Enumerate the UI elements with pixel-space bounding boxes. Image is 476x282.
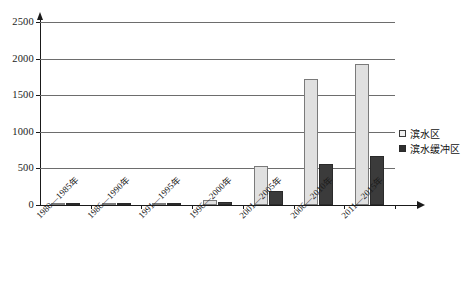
y-tick-label-0: 0 xyxy=(0,200,34,211)
bar-chart: 05001000150020002500 1980—1985年1986—1990… xyxy=(0,0,476,282)
chart-legend: 滨水区 滨水缓冲区 xyxy=(399,126,460,156)
y-axis-arrow-icon xyxy=(37,12,43,20)
plot-area xyxy=(40,22,395,205)
bar xyxy=(167,203,181,205)
x-tick-mark xyxy=(395,205,396,209)
x-axis-arrow-icon xyxy=(417,201,425,209)
legend-swatch-icon-buffer xyxy=(399,145,406,152)
y-tick-label-2000: 2000 xyxy=(0,53,34,64)
legend-label-buffer: 滨水缓冲区 xyxy=(410,141,460,156)
x-axis-line xyxy=(395,205,419,206)
bar xyxy=(218,202,232,205)
y-tick-label-500: 500 xyxy=(0,163,34,174)
y-tick-label-1500: 1500 xyxy=(0,90,34,101)
bar xyxy=(117,203,131,205)
y-tick-label-2500: 2500 xyxy=(0,17,34,28)
legend-swatch-icon-waterfront xyxy=(399,130,406,137)
legend-item-waterfront: 滨水区 xyxy=(399,126,460,141)
y-tick-label-1000: 1000 xyxy=(0,127,34,138)
legend-label-waterfront: 滨水区 xyxy=(410,126,440,141)
bar xyxy=(66,203,80,205)
legend-item-buffer: 滨水缓冲区 xyxy=(399,141,460,156)
